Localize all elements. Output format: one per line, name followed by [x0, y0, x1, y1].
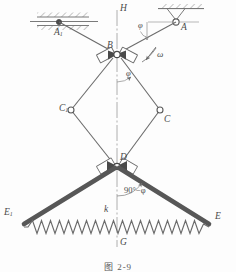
label-B: B	[107, 41, 113, 51]
label-omega: ω	[157, 50, 163, 59]
joint-C1	[68, 107, 74, 113]
link-B-C	[121, 58, 160, 110]
label-A: A	[181, 23, 187, 33]
label-D: D	[120, 153, 127, 163]
label-H: H	[120, 4, 127, 14]
heavy-link-D-E	[119, 168, 209, 224]
joint-C	[157, 107, 163, 113]
label-A1-sub: 1	[60, 31, 63, 37]
figure-caption: 图 2-9	[0, 260, 236, 272]
label-E1-sub: 1	[10, 211, 13, 217]
support-A1-slider-track	[30, 13, 98, 31]
label-phi-top: φ	[138, 21, 143, 30]
figure-container: H G A A1 B C1 C D E1 E k ω φ φ 90°−φ 图 2…	[0, 0, 236, 272]
label-angle-90-minus-phi: 90°−φ	[124, 186, 146, 195]
label-C1: C1	[59, 104, 68, 114]
support-A-pin-ceiling	[148, 4, 204, 25]
mechanism-diagram	[0, 0, 236, 272]
link-B-C1	[71, 58, 113, 110]
omega-rotation-arrow	[142, 47, 156, 62]
label-A1: A1	[54, 28, 63, 38]
heavy-link-D-E1	[24, 168, 115, 224]
label-k: k	[104, 205, 108, 215]
label-E1: E1	[4, 208, 13, 218]
label-C: C	[164, 115, 170, 125]
spring-k	[24, 221, 209, 234]
linkage-rhombus	[71, 58, 160, 163]
label-C1-sub: 1	[65, 107, 68, 113]
label-E: E	[215, 212, 221, 222]
label-phi-mid: φ	[126, 69, 131, 78]
label-G: G	[120, 238, 127, 248]
link-C1-D	[71, 110, 113, 163]
